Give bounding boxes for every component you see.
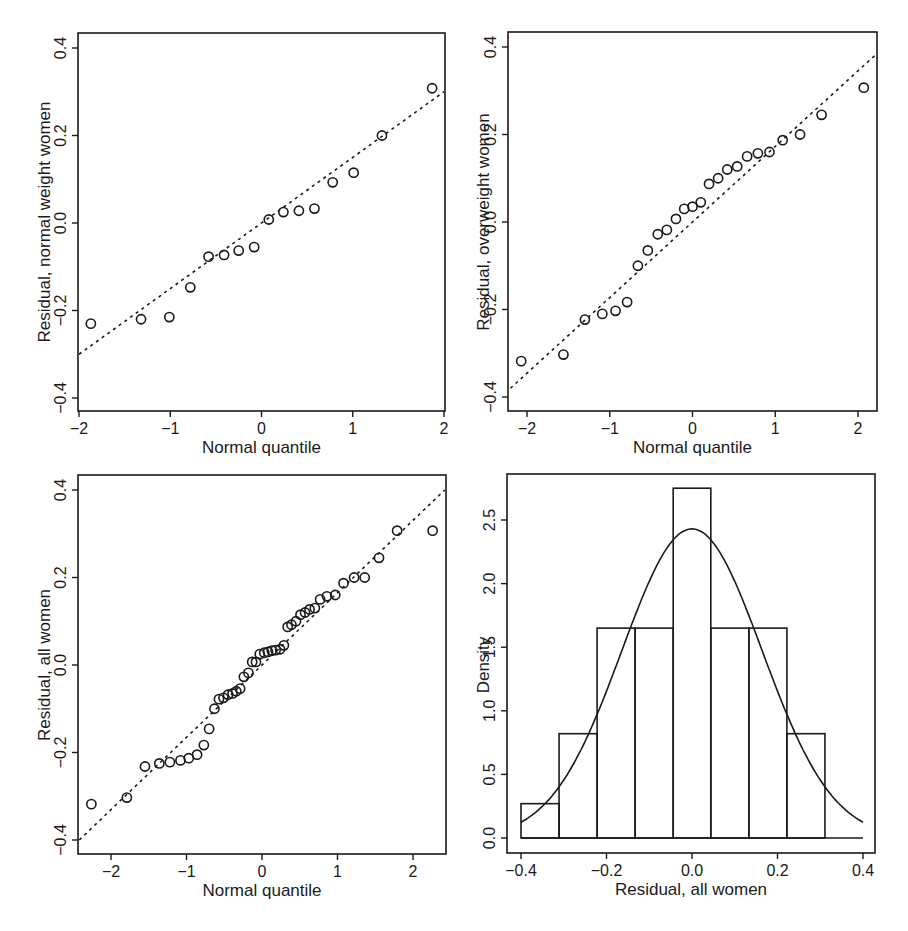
panel-2-ylabel: Residual, overweight women — [474, 42, 494, 402]
x-tick-label: −1 — [601, 420, 619, 437]
data-point — [87, 800, 96, 809]
panel-1-ylabel: Residual, normal weight women — [35, 32, 55, 412]
data-point — [704, 179, 713, 188]
data-point — [210, 704, 219, 713]
data-point — [428, 84, 437, 93]
panel-1: −2−1012−0.4−0.20.00.20.4 — [52, 33, 449, 437]
plot-frame — [78, 33, 445, 411]
data-point — [310, 204, 319, 213]
histogram-bar — [673, 488, 711, 838]
x-tick-label: 1 — [348, 420, 357, 437]
x-tick-label: 0.4 — [852, 862, 874, 879]
data-point — [633, 261, 642, 270]
data-point — [671, 214, 680, 223]
data-point — [795, 130, 804, 139]
data-point — [393, 526, 402, 535]
x-tick-label: 1 — [771, 420, 780, 437]
data-point — [714, 174, 723, 183]
x-tick-label: −1 — [177, 863, 195, 880]
panel-3-ylabel: Residual, all women — [35, 475, 55, 855]
data-point — [264, 215, 273, 224]
data-point — [234, 246, 243, 255]
data-point — [643, 246, 652, 255]
reference-line — [79, 490, 444, 840]
data-point — [219, 250, 228, 259]
data-point — [186, 283, 195, 292]
data-point — [86, 319, 95, 328]
histogram-bar — [711, 628, 749, 838]
data-point — [155, 759, 164, 768]
data-point — [140, 762, 149, 771]
panel-2: −2−1012−0.4−0.20.00.20.4 — [482, 32, 877, 437]
data-point — [165, 758, 174, 767]
x-tick-label: 0 — [257, 420, 266, 437]
data-point — [310, 604, 319, 613]
panel-4-xlabel: Residual, all women — [507, 880, 875, 900]
x-tick-label: −0.2 — [591, 862, 623, 879]
data-point — [859, 83, 868, 92]
histogram-bar — [559, 734, 597, 838]
data-point — [653, 230, 662, 239]
data-point — [517, 357, 526, 366]
panel-3-xlabel: Normal quantile — [78, 881, 446, 901]
data-point — [723, 165, 732, 174]
histogram-bar — [749, 628, 787, 838]
histogram-bar — [787, 734, 825, 838]
data-point — [428, 526, 437, 535]
x-tick-label: −2 — [102, 863, 120, 880]
x-tick-label: 2 — [440, 420, 449, 437]
data-point — [192, 750, 201, 759]
y-tick-label: 0.0 — [481, 827, 498, 849]
histogram-bar — [635, 628, 673, 838]
data-point — [743, 152, 752, 161]
data-point — [733, 162, 742, 171]
data-point — [279, 207, 288, 216]
normal-density-curve — [521, 529, 863, 822]
x-tick-label: 0.2 — [766, 862, 788, 879]
panel-4-ylabel: Density — [474, 515, 494, 815]
x-tick-label: 0 — [688, 420, 697, 437]
x-tick-label: 0 — [258, 863, 267, 880]
plot-frame — [507, 474, 875, 853]
data-point — [611, 306, 620, 315]
panel-2-xlabel: Normal quantile — [508, 438, 877, 458]
data-point — [623, 297, 632, 306]
panel-1-xlabel: Normal quantile — [78, 438, 445, 458]
x-tick-label: 2 — [409, 863, 418, 880]
data-point — [696, 198, 705, 207]
data-point — [349, 168, 358, 177]
data-point — [165, 312, 174, 321]
x-tick-label: −2 — [70, 420, 88, 437]
data-point — [199, 740, 208, 749]
data-point — [662, 225, 671, 234]
histogram-bar — [597, 628, 635, 838]
data-point — [204, 252, 213, 261]
data-point — [374, 553, 383, 562]
data-point — [580, 315, 589, 324]
reference-line — [79, 92, 444, 355]
data-point — [205, 724, 214, 733]
reference-line — [510, 56, 874, 389]
x-tick-label: −1 — [161, 420, 179, 437]
data-point — [360, 573, 369, 582]
data-point — [294, 206, 303, 215]
data-point — [559, 350, 568, 359]
data-point — [817, 110, 826, 119]
x-tick-label: −0.4 — [505, 862, 537, 879]
x-tick-label: 0.0 — [681, 862, 703, 879]
data-point — [328, 178, 337, 187]
data-point — [250, 242, 259, 251]
x-tick-label: −2 — [518, 420, 536, 437]
data-point — [598, 309, 607, 318]
panel-4: −0.4−0.20.00.20.40.00.51.01.52.02.5 — [481, 474, 875, 879]
x-tick-label: 2 — [854, 420, 863, 437]
panel-3: −2−1012−0.4−0.20.00.20.4 — [52, 475, 446, 880]
figure-canvas: −2−1012−0.4−0.20.00.20.4−2−1012−0.4−0.20… — [0, 0, 908, 931]
data-point — [136, 315, 145, 324]
data-point — [753, 149, 762, 158]
x-tick-label: 1 — [333, 863, 342, 880]
data-point — [778, 136, 787, 145]
